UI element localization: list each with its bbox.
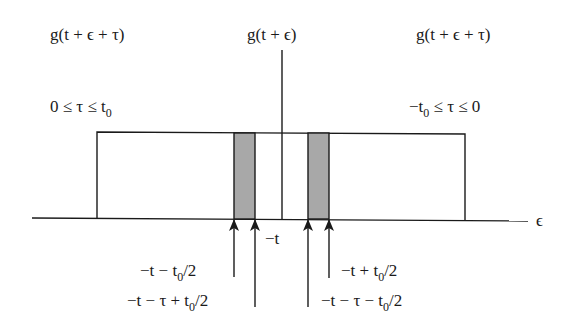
- left-function-label: g(t + ϵ + τ): [50, 25, 124, 44]
- epsilon-axis-label: ϵ: [536, 211, 543, 230]
- diagram-canvas: ϵ g(t + ϵ + τ) g(t + ϵ) g(t + ϵ + τ) 0 ≤…: [0, 0, 569, 327]
- arrow-2-label: −t − τ + t0/2: [127, 291, 208, 314]
- shaded-region-left: [234, 133, 255, 219]
- arrow-4-label: −t + t0/2: [341, 261, 397, 284]
- center-function-label: g(t + ϵ): [247, 25, 297, 44]
- arrow-3-label: −t − τ − t0/2: [321, 291, 402, 314]
- epsilon-axis: [32, 218, 528, 221]
- shaded-region-right: [308, 133, 329, 219]
- minus-t-label: −t: [265, 229, 280, 248]
- pulse-rectangle: [97, 132, 465, 220]
- arrow-1-label: −t − t0/2: [140, 261, 196, 284]
- left-range-label: 0 ≤ τ ≤ t0: [50, 97, 112, 120]
- right-range-label: −t0 ≤ τ ≤ 0: [409, 97, 480, 120]
- right-function-label: g(t + ϵ + τ): [416, 25, 490, 44]
